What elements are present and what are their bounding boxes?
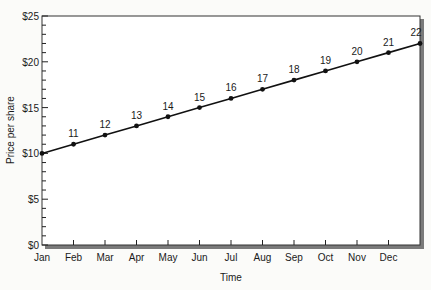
x-tick-label: Aug [254,252,272,263]
data-point-marker [260,87,265,92]
data-point-marker [386,50,391,55]
data-point-label: 20 [351,46,363,57]
data-point-label: 21 [383,37,395,48]
x-tick-label: Jun [191,252,207,263]
y-tick-label: $25 [22,11,39,22]
data-point-label: 12 [99,119,111,130]
plot-frame [42,16,424,249]
data-point-label: 22 [410,27,422,38]
x-tick-label: Jul [225,252,238,263]
data-point-marker [292,78,297,83]
data-point-label: 17 [257,73,269,84]
x-tick-label: Jan [34,252,50,263]
data-point-label: 14 [162,101,174,112]
data-point-marker [166,114,171,119]
line-chart: $0$5$10$15$20$25 JanFebMarAprMayJunJulAu… [0,0,431,290]
data-point-marker [323,69,328,74]
y-axis-title: Price per share [5,96,16,164]
y-tick-label: $5 [28,194,40,205]
data-point-marker [103,133,108,138]
y-tick-label: $0 [28,240,40,251]
data-point-marker [134,124,139,129]
x-tick-label: Dec [380,252,398,263]
data-point-label: 11 [68,128,79,139]
x-tick-label: Sep [285,252,303,263]
frame-shadow-bottom [45,245,424,249]
data-point-marker [197,105,202,110]
x-tick-label: May [159,252,178,263]
data-point-label: 13 [131,110,143,121]
y-tick-label: $15 [22,103,39,114]
x-tick-label: Nov [348,252,366,263]
data-point-label: 18 [288,64,300,75]
data-point-marker [71,142,76,147]
data-point-label: 19 [320,55,332,66]
data-point-label: 16 [225,82,237,93]
x-axis-title: Time [220,272,242,283]
data-point-label: 15 [194,92,206,103]
data-point-marker [40,151,45,156]
plot-area [42,16,420,245]
x-tick-label: Feb [65,252,83,263]
y-tick-label: $10 [22,148,39,159]
data-point-marker [229,96,234,101]
x-tick-label: Oct [318,252,334,263]
y-tick-label: $20 [22,57,39,68]
data-point-marker [418,41,423,46]
frame-shadow-right [420,19,424,249]
data-point-marker [355,59,360,64]
x-tick-label: Mar [96,252,114,263]
x-tick-label: Apr [129,252,145,263]
